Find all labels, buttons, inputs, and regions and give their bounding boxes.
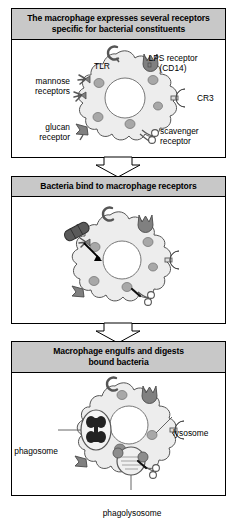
label-tlr: TLR [90, 62, 114, 72]
panel-1-header-line-1: The macrophage expresses several recepto… [16, 13, 221, 24]
lps-receptor-icon [142, 386, 157, 404]
granule [148, 76, 158, 85]
label-lysosome: lysosome [173, 429, 208, 439]
granule [154, 102, 163, 110]
granule [89, 277, 99, 286]
nucleus [110, 406, 148, 444]
panel-3-header: Macrophage engulfs and digests bound bac… [12, 342, 225, 373]
label-lps-receptor: LPS receptor (CD14) [136, 54, 210, 73]
label-mannose-receptors-line-2: receptors [14, 87, 70, 97]
panel-2-header: Bacteria bind to macrophage receptors [12, 177, 225, 197]
down-arrow-icon [96, 157, 140, 177]
panel-receptor-expression: The macrophage expresses several recepto… [11, 8, 226, 158]
label-glucan-receptor-line-2: receptor [12, 133, 70, 143]
lysosome-granule [147, 431, 157, 440]
panel-3-body: phagosome lysosome phagolysosome [12, 373, 225, 522]
glucan-receptor-icon [75, 456, 87, 467]
granule [125, 120, 135, 129]
panel-bacteria-binding: Bacteria bind to macrophage receptors [11, 176, 226, 324]
lps-receptor-icon [138, 215, 153, 233]
flow-arrow-1 [0, 156, 237, 178]
panel-3-header-line-1: Macrophage engulfs and digests [16, 346, 221, 357]
label-phagolysosome: phagolysosome [92, 509, 172, 519]
granule [149, 263, 158, 271]
granule [122, 283, 132, 292]
panel-1-header: The macrophage expresses several recepto… [12, 9, 225, 40]
label-mannose-receptors: mannose receptors [14, 77, 70, 96]
down-arrow-icon [96, 323, 140, 343]
granule [117, 391, 127, 400]
granule [143, 238, 153, 247]
phagosome [81, 410, 111, 450]
label-lps-receptor-line-2: (CD14) [136, 64, 210, 74]
label-cr3: CR3 [197, 94, 214, 104]
panel-1-header-line-2: specific for bacterial constituents [16, 24, 221, 35]
label-scavenger-receptor: scavenger receptor [160, 127, 199, 146]
nucleus [103, 241, 141, 279]
panel-2-illustration [12, 197, 225, 325]
glucan-receptor-icon [76, 124, 88, 140]
panel-engulf-digest: Macrophage engulfs and digests bound bac… [11, 341, 226, 496]
panel-2-header-line-1: Bacteria bind to macrophage receptors [16, 181, 221, 192]
label-phagosome: phagosome [12, 447, 58, 457]
label-scavenger-receptor-line-2: receptor [160, 137, 199, 147]
label-glucan-receptor: glucan receptor [12, 123, 70, 142]
nucleus [105, 78, 145, 118]
granule [93, 113, 103, 122]
panel-3-header-line-2: bound bacteria [16, 357, 221, 368]
granule [94, 79, 104, 88]
